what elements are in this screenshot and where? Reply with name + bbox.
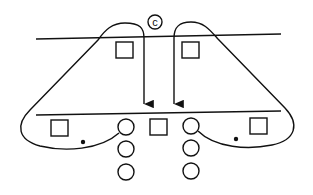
left-circle-2: [118, 141, 134, 157]
diagram-canvas: c: [0, 0, 313, 195]
left-dot: [81, 140, 85, 144]
right-circle-3: [183, 163, 199, 179]
top-boundary-line: [36, 34, 281, 39]
top-left-square: [116, 42, 133, 58]
left-circle-1: [118, 119, 134, 135]
label-c: c: [152, 16, 158, 28]
bottom-center-square: [150, 119, 167, 135]
bottom-left-square: [51, 120, 68, 136]
right-dot: [234, 137, 238, 141]
top-right-square: [182, 42, 199, 58]
right-circle-2: [183, 140, 199, 156]
bottom-right-square: [250, 118, 267, 134]
right-circle-1: [183, 118, 199, 134]
left-circle-3: [118, 164, 134, 180]
bottom-boundary-line: [36, 111, 281, 115]
